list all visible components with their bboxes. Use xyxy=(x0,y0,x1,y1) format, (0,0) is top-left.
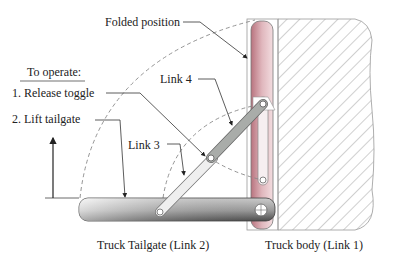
lift-arrow xyxy=(45,138,79,198)
label-link4: Link 4 xyxy=(160,72,192,86)
leader-lines xyxy=(95,22,247,197)
label-step2: 2. Lift tailgate xyxy=(12,112,80,126)
label-to-operate: To operate: xyxy=(27,65,81,79)
tailgate-mechanism-diagram: Folded position To operate: 1. Release t… xyxy=(0,0,393,262)
label-link3: Link 3 xyxy=(128,138,160,152)
label-truck-body: Truck body (Link 1) xyxy=(265,238,363,252)
label-folded-position: Folded position xyxy=(105,15,180,29)
motion-arcs xyxy=(80,20,262,198)
label-step1: 1. Release toggle xyxy=(12,86,94,100)
label-tailgate: Truck Tailgate (Link 2) xyxy=(97,238,209,252)
